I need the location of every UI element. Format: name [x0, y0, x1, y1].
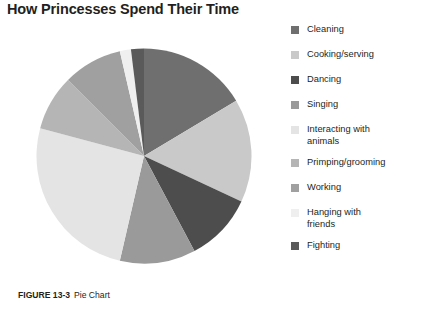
legend-swatch-icon	[291, 101, 299, 109]
legend-item-label: Hanging withfriends	[307, 207, 361, 230]
figure-container: How Princesses Spend Their Time Cleaning…	[0, 0, 437, 316]
figure-caption-text: Pie Chart	[74, 290, 110, 300]
legend-item[interactable]: Interacting withanimals	[291, 124, 431, 147]
legend-item-label: Cooking/serving	[307, 49, 374, 61]
pie-slice-group	[36, 49, 251, 264]
legend-swatch-icon	[291, 51, 299, 59]
legend-item[interactable]: Cleaning	[291, 24, 431, 36]
figure-caption-label: FIGURE 13-3	[18, 290, 70, 300]
legend-item-label: Interacting withanimals	[307, 124, 370, 147]
legend-item-label: Dancing	[307, 74, 341, 86]
legend-item[interactable]: Working	[291, 182, 431, 194]
legend-swatch-icon	[291, 76, 299, 84]
legend-swatch-icon	[291, 184, 299, 192]
legend-item-label: Cleaning	[307, 24, 344, 36]
legend-item-label: Singing	[307, 99, 338, 111]
legend-item-label: Primping/grooming	[307, 157, 385, 169]
pie-chart	[36, 48, 252, 264]
legend-swatch-icon	[291, 159, 299, 167]
figure-caption: FIGURE 13-3Pie Chart	[18, 290, 110, 300]
pie-chart-svg	[36, 48, 252, 264]
legend-swatch-icon	[291, 242, 299, 250]
legend-item[interactable]: Singing	[291, 99, 431, 111]
chart-legend: CleaningCooking/servingDancingSingingInt…	[291, 24, 431, 265]
legend-item[interactable]: Cooking/serving	[291, 49, 431, 61]
legend-item[interactable]: Dancing	[291, 74, 431, 86]
legend-swatch-icon	[291, 209, 299, 217]
chart-title: How Princesses Spend Their Time	[7, 1, 239, 17]
legend-item[interactable]: Hanging withfriends	[291, 207, 431, 230]
legend-item-label: Fighting	[307, 240, 340, 252]
legend-item-label: Working	[307, 182, 341, 194]
legend-item[interactable]: Primping/grooming	[291, 157, 431, 169]
legend-swatch-icon	[291, 126, 299, 134]
legend-swatch-icon	[291, 26, 299, 34]
legend-item[interactable]: Fighting	[291, 240, 431, 252]
